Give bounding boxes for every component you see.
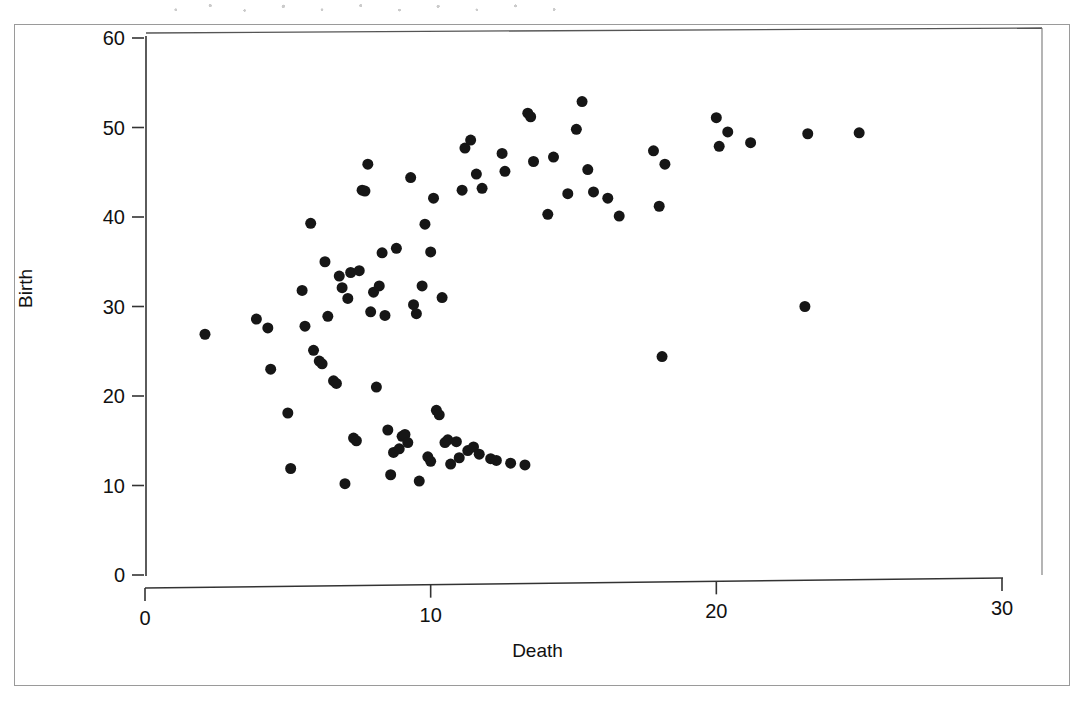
x-tick-label: 10 xyxy=(420,605,442,625)
scatter-point xyxy=(365,306,376,317)
scatter-point xyxy=(297,285,308,296)
scatter-point xyxy=(711,112,722,123)
scatter-point xyxy=(854,127,865,138)
scatter-point xyxy=(265,364,276,375)
scatter-point xyxy=(417,280,428,291)
scatter-point xyxy=(714,141,725,152)
x-tick-label: 0 xyxy=(139,608,150,628)
scatter-point xyxy=(337,282,348,293)
scatter-point xyxy=(434,409,445,420)
scatter-point xyxy=(465,135,476,146)
scatter-point xyxy=(571,124,582,135)
scatter-point xyxy=(454,452,465,463)
scatter-point xyxy=(477,183,488,194)
scatter-point xyxy=(542,209,553,220)
x-axis-ticks xyxy=(145,578,1002,601)
scatter-point xyxy=(802,128,813,139)
scatter-point xyxy=(308,345,319,356)
scatter-point xyxy=(525,111,536,122)
scatter-chart: 0102030405060 0102030 Birth Death xyxy=(0,0,1075,705)
y-axis-ticks xyxy=(132,38,144,575)
scatter-point xyxy=(588,186,599,197)
scatter-point xyxy=(379,310,390,321)
scatter-point xyxy=(262,322,273,333)
scatter-point xyxy=(322,311,333,322)
scatter-points xyxy=(199,96,864,489)
scatter-point xyxy=(371,382,382,393)
scatter-point xyxy=(428,193,439,204)
scatter-point xyxy=(497,148,508,159)
scatter-point xyxy=(391,243,402,254)
scatter-point xyxy=(614,211,625,222)
x-tick-label: 20 xyxy=(705,601,727,621)
scatter-point xyxy=(519,459,530,470)
scatter-point xyxy=(648,145,659,156)
scatter-point xyxy=(799,301,810,312)
x-axis-title: Death xyxy=(0,641,1075,660)
scatter-point xyxy=(377,247,388,258)
scatter-point xyxy=(491,455,502,466)
scatter-point xyxy=(562,188,573,199)
y-tick-label: 60 xyxy=(63,28,125,48)
y-tick-label: 40 xyxy=(63,207,125,227)
panel-rules xyxy=(146,28,1042,575)
scatter-point xyxy=(285,463,296,474)
scatter-point xyxy=(334,271,345,282)
scatter-point xyxy=(602,193,613,204)
scatter-point xyxy=(405,172,416,183)
scatter-point xyxy=(411,308,422,319)
y-tick-label: 0 xyxy=(63,565,125,585)
scatter-point xyxy=(382,425,393,436)
scatter-point xyxy=(474,449,485,460)
scatter-point xyxy=(342,293,353,304)
y-tick-label: 20 xyxy=(63,386,125,406)
scatter-point xyxy=(282,408,293,419)
scatter-point xyxy=(351,435,362,446)
scatter-point xyxy=(722,126,733,137)
scatter-point xyxy=(505,458,516,469)
scatter-point xyxy=(437,292,448,303)
scatter-point xyxy=(359,186,370,197)
scatter-point xyxy=(414,476,425,487)
y-axis xyxy=(132,36,146,576)
scatter-point xyxy=(354,265,365,276)
scatter-point xyxy=(451,436,462,447)
scatter-point xyxy=(471,169,482,180)
scatter-point xyxy=(548,152,559,163)
scatter-point xyxy=(499,166,510,177)
scatter-point xyxy=(374,280,385,291)
scatter-point xyxy=(402,437,413,448)
scatter-point xyxy=(199,329,210,340)
scatter-point xyxy=(299,321,310,332)
scatter-point xyxy=(425,456,436,467)
scatter-point xyxy=(319,256,330,267)
scatter-point xyxy=(745,137,756,148)
scatter-point xyxy=(457,185,468,196)
scatter-point xyxy=(528,156,539,167)
scatter-point xyxy=(331,378,342,389)
x-axis xyxy=(145,578,1003,601)
scatter-point xyxy=(305,218,316,229)
scatter-point xyxy=(654,201,665,212)
scatter-point xyxy=(385,469,396,480)
x-tick-label: 30 xyxy=(991,598,1013,618)
scatter-point xyxy=(657,351,668,362)
y-tick-label: 10 xyxy=(63,476,125,496)
plot-canvas xyxy=(0,0,1075,705)
scatter-point xyxy=(362,159,373,170)
scatter-point xyxy=(577,96,588,107)
y-tick-label: 30 xyxy=(63,297,125,317)
scatter-point xyxy=(317,358,328,369)
scatter-point xyxy=(251,314,262,325)
y-axis-title: Birth xyxy=(16,269,35,308)
scatter-point xyxy=(419,219,430,230)
scatter-point xyxy=(339,478,350,489)
scatter-point xyxy=(659,159,670,170)
y-tick-label: 50 xyxy=(63,118,125,138)
scatter-point xyxy=(582,164,593,175)
scatter-point xyxy=(425,246,436,257)
